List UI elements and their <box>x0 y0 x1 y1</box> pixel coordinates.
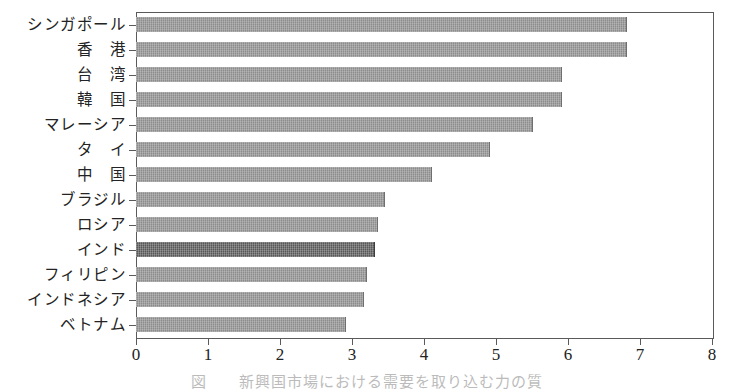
bar-row <box>136 187 712 212</box>
value-tick <box>136 338 137 345</box>
value-tick <box>640 338 641 345</box>
bars-container <box>136 12 712 337</box>
category-label: 香 港 <box>77 42 131 58</box>
bar-row <box>136 262 712 287</box>
value-tick-label: 7 <box>636 345 645 365</box>
value-tick-label: 2 <box>276 345 285 365</box>
bar <box>136 142 490 157</box>
value-tick-label: 1 <box>204 345 213 365</box>
bar-row <box>136 112 712 137</box>
category-tick <box>129 125 136 126</box>
bar <box>136 292 364 307</box>
value-tick-label: 5 <box>492 345 501 365</box>
value-tick-label: 8 <box>708 345 717 365</box>
bar-row <box>136 87 712 112</box>
category-label: マレーシア <box>44 117 131 133</box>
bar <box>136 317 346 332</box>
category-label: 中 国 <box>77 167 131 183</box>
bar <box>136 117 533 132</box>
bar <box>136 42 627 57</box>
category-tick <box>129 50 136 51</box>
category-label: ロシア <box>77 217 131 233</box>
bar <box>136 17 627 32</box>
bar-row <box>136 237 712 262</box>
value-tick-label: 6 <box>564 345 573 365</box>
bar <box>136 192 385 207</box>
category-label: 台 湾 <box>77 67 131 83</box>
bar-row <box>136 137 712 162</box>
category-label: 韓 国 <box>77 92 131 108</box>
value-axis-ticks <box>136 338 712 345</box>
category-label: フィリピン <box>44 267 131 283</box>
category-tick <box>129 100 136 101</box>
bar-row <box>136 62 712 87</box>
bar <box>136 217 378 232</box>
value-tick <box>712 338 713 345</box>
bar-highlighted <box>136 242 375 257</box>
value-tick <box>568 338 569 345</box>
category-axis-ticks <box>129 12 136 337</box>
category-tick <box>129 175 136 176</box>
category-tick <box>129 225 136 226</box>
category-label: インドネシア <box>27 292 130 308</box>
bar <box>136 67 562 82</box>
bar-row <box>136 37 712 62</box>
bar-row <box>136 12 712 37</box>
value-tick <box>208 338 209 345</box>
category-label: タ イ <box>77 142 131 158</box>
value-axis-labels: 012345678 <box>136 345 712 367</box>
category-tick <box>129 200 136 201</box>
bar-row <box>136 162 712 187</box>
category-tick <box>129 150 136 151</box>
category-tick <box>129 25 136 26</box>
bar <box>136 167 432 182</box>
horizontal-bar-chart: シンガポール香 港台 湾韓 国マレーシアタ イ中 国ブラジルロシアインドフィリピ… <box>0 0 733 392</box>
category-label: インド <box>77 242 131 258</box>
bar-row <box>136 287 712 312</box>
category-label: ベトナム <box>60 317 130 333</box>
category-tick <box>129 300 136 301</box>
category-axis-labels: シンガポール香 港台 湾韓 国マレーシアタ イ中 国ブラジルロシアインドフィリピ… <box>0 12 130 337</box>
value-tick <box>496 338 497 345</box>
bar-row <box>136 212 712 237</box>
bar <box>136 267 367 282</box>
bar-row <box>136 312 712 337</box>
category-label: シンガポール <box>27 17 130 33</box>
category-label: ブラジル <box>60 192 130 208</box>
bar <box>136 92 562 107</box>
category-tick <box>129 325 136 326</box>
value-tick-label: 4 <box>420 345 429 365</box>
value-tick <box>352 338 353 345</box>
category-tick <box>129 250 136 251</box>
category-tick <box>129 275 136 276</box>
category-tick <box>129 75 136 76</box>
value-tick <box>280 338 281 345</box>
figure-caption: 図 新興国市場における需要を取り込む力の質 <box>0 372 733 392</box>
value-tick <box>424 338 425 345</box>
value-tick-label: 3 <box>348 345 357 365</box>
value-tick-label: 0 <box>132 345 141 365</box>
